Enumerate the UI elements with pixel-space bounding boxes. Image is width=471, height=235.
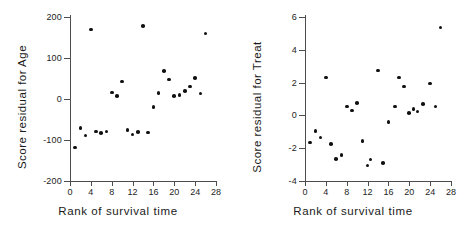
data-point <box>324 76 328 80</box>
scatter-plot-figure: 2001000-100-200 0481216202428 Score resi… <box>0 0 471 235</box>
data-point <box>393 105 397 109</box>
panel-score-residual-treat: 6420-2-4 0481216202428 Score residual fo… <box>235 0 471 235</box>
data-point <box>110 91 114 95</box>
data-point <box>416 110 420 114</box>
data-point <box>434 105 438 109</box>
data-point <box>350 109 354 113</box>
data-point <box>105 130 109 134</box>
data-point <box>439 26 443 30</box>
data-point <box>314 129 318 133</box>
x-tick-mark <box>133 181 134 186</box>
data-point <box>376 69 380 73</box>
x-tick-mark <box>388 181 389 186</box>
data-point <box>120 80 124 84</box>
data-point <box>204 32 208 36</box>
data-point <box>84 134 88 138</box>
data-point <box>157 91 161 95</box>
x-tick-label: 12 <box>357 188 379 197</box>
data-point <box>402 85 406 89</box>
x-tick-mark <box>430 181 431 186</box>
x-tick-label: 8 <box>336 188 358 197</box>
x-tick-mark <box>347 181 348 186</box>
y-axis-title-age: Score residual for Age <box>16 25 32 189</box>
x-tick-label: 16 <box>377 188 399 197</box>
data-point <box>172 94 176 98</box>
x-tick-label: 24 <box>419 188 441 197</box>
data-point <box>199 92 203 96</box>
x-tick-label: 20 <box>163 188 185 197</box>
data-point <box>329 142 333 146</box>
data-point <box>369 158 373 162</box>
data-point <box>136 130 140 134</box>
data-point <box>193 76 197 80</box>
y-tick-mark <box>299 17 305 18</box>
y-tick-label-wrap: 200 <box>20 13 62 22</box>
data-point <box>126 128 130 132</box>
data-point <box>162 69 166 73</box>
data-point <box>361 139 365 143</box>
x-tick-mark <box>451 181 452 186</box>
y-tick-label: 200 <box>22 13 62 22</box>
x-tick-mark <box>326 181 327 186</box>
data-point <box>183 89 187 93</box>
x-tick-mark <box>112 181 113 186</box>
y-axis-title-treat: Score residual for Treat <box>251 25 267 189</box>
data-point <box>319 136 323 140</box>
data-point <box>188 85 192 89</box>
x-tick-mark <box>153 181 154 186</box>
y-tick-label-wrap: 6 <box>255 13 297 22</box>
x-axis-title-treat: Rank of survival time <box>235 205 471 217</box>
y-tick-mark <box>64 17 70 18</box>
x-tick-label: 0 <box>59 188 81 197</box>
data-point <box>381 161 385 165</box>
x-tick-label: 4 <box>80 188 102 197</box>
y-tick-mark <box>299 83 305 84</box>
data-point <box>167 78 171 82</box>
data-point <box>407 111 411 115</box>
x-tick-mark <box>368 181 369 186</box>
data-point <box>141 24 145 28</box>
data-point <box>340 153 344 157</box>
panel-score-residual-age: 2001000-100-200 0481216202428 Score resi… <box>0 0 236 235</box>
data-point <box>355 101 359 105</box>
x-tick-label: 12 <box>122 188 144 197</box>
data-point <box>428 82 432 86</box>
data-point <box>89 28 93 32</box>
x-tick-label: 24 <box>184 188 206 197</box>
data-point <box>94 130 98 134</box>
x-tick-mark <box>216 181 217 186</box>
y-tick-mark <box>64 99 70 100</box>
x-tick-mark <box>409 181 410 186</box>
data-point <box>99 131 103 135</box>
data-point <box>131 133 135 137</box>
y-axis-line-age <box>70 15 71 183</box>
data-point <box>178 93 182 97</box>
data-point <box>115 94 119 98</box>
data-point <box>308 141 312 145</box>
x-tick-label: 28 <box>440 188 462 197</box>
data-point <box>421 102 425 106</box>
x-tick-label: 8 <box>101 188 123 197</box>
x-tick-mark <box>305 181 306 186</box>
data-point <box>345 105 349 109</box>
x-tick-label: 28 <box>205 188 227 197</box>
data-point <box>152 105 156 109</box>
y-axis-line-treat <box>305 15 306 183</box>
x-tick-label: 20 <box>398 188 420 197</box>
x-tick-mark <box>70 181 71 186</box>
y-tick-mark <box>299 115 305 116</box>
x-tick-mark <box>174 181 175 186</box>
data-point <box>387 120 391 124</box>
data-point <box>79 126 83 130</box>
x-tick-label: 16 <box>142 188 164 197</box>
x-tick-mark <box>195 181 196 186</box>
data-point <box>412 107 416 111</box>
y-tick-mark <box>64 140 70 141</box>
x-axis-title-age: Rank of survival time <box>0 205 236 217</box>
y-tick-label: 6 <box>257 13 297 22</box>
data-point <box>334 157 338 161</box>
x-tick-mark <box>91 181 92 186</box>
data-point <box>73 146 77 150</box>
data-point <box>397 76 401 80</box>
data-point <box>366 164 370 168</box>
